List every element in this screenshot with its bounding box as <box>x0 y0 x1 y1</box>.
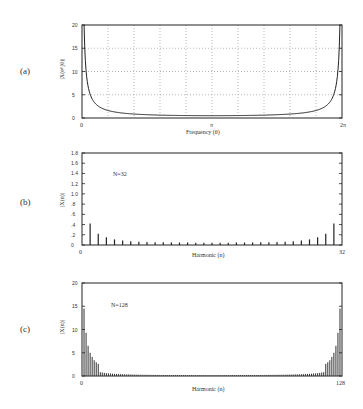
y-tick-label-b: .2 <box>71 232 75 238</box>
y-tick-label-b: .6 <box>71 211 75 217</box>
y-tick-label-a: 0 <box>72 115 75 121</box>
x-axis-label-b: Harmonic (n) <box>192 252 225 258</box>
x-tick-label-a: 0 <box>80 122 83 128</box>
x-tick-label-a: π <box>210 122 213 128</box>
x-tick-label-a: 2π <box>340 122 346 128</box>
x-tick-label-c: 0 <box>80 380 83 386</box>
x-tick-label-b: 0 <box>79 249 82 255</box>
x-tick-label-c: 128 <box>336 380 345 386</box>
x-tick-label-b: 32 <box>339 249 345 255</box>
y-axis-label-b: |X(n)| <box>59 180 65 220</box>
x-axis-label-c: Harmonic (n) <box>192 386 225 392</box>
x-axis-label-a: Frequency (θ) <box>186 129 220 135</box>
y-tick-label-a: 20 <box>72 22 78 28</box>
y-tick-label-c: 5 <box>72 350 75 356</box>
annotation-n128: N=128 <box>111 302 128 308</box>
panel-label-c: (c) <box>20 324 30 334</box>
y-tick-label-b: 0 <box>71 242 74 248</box>
y-tick-label-a: 10 <box>72 69 78 75</box>
y-axis-label-a: |X(e^jθ)| <box>59 49 65 89</box>
annotation-n32: N=32 <box>113 171 127 177</box>
y-tick-label-a: 5 <box>72 92 75 98</box>
y-tick-label-c: 20 <box>72 280 78 286</box>
y-tick-label-c: 0 <box>72 373 75 379</box>
panel-label-a: (a) <box>20 66 30 76</box>
y-tick-label-b: 1.2 <box>71 181 78 187</box>
panel-label-b: (b) <box>20 197 31 207</box>
y-tick-label-a: 15 <box>72 45 78 51</box>
y-tick-label-b: .8 <box>71 201 75 207</box>
harmonic-bar-plot-n128 <box>82 283 342 376</box>
y-tick-label-c: 15 <box>72 303 78 309</box>
y-axis-label-c: |X(n)| <box>59 307 65 347</box>
y-tick-label-b: .4 <box>71 222 75 228</box>
harmonic-bar-plot-n32 <box>82 153 342 245</box>
y-tick-label-b: 1.6 <box>71 160 78 166</box>
y-tick-label-b: 1.8 <box>71 150 78 156</box>
y-tick-label-b: 1.4 <box>71 170 78 176</box>
y-tick-label-b: 1.0 <box>71 191 78 197</box>
y-tick-label-c: 10 <box>72 327 78 333</box>
frequency-response-plot <box>82 25 342 118</box>
